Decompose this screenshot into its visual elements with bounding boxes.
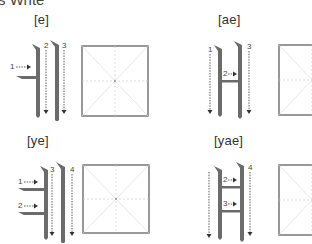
svg-text:1: 1 [18, 177, 23, 186]
stroke-order-glyph-ae: 1 2 3 [190, 35, 270, 120]
panel-label: [ae] [218, 12, 240, 27]
svg-text:1: 1 [208, 45, 213, 54]
svg-text:3: 3 [247, 42, 252, 51]
panel-label: [yae] [214, 133, 243, 148]
practice-grid-box[interactable] [82, 164, 150, 234]
svg-text:2: 2 [18, 201, 23, 210]
svg-text:4: 4 [248, 163, 253, 172]
panel-ye: [ye] 1 2 3 4 [0, 122, 156, 244]
svg-text:1: 1 [10, 62, 15, 71]
panel-ae: [ae] 1 2 3 [156, 0, 312, 122]
svg-text:3: 3 [223, 199, 228, 208]
practice-grid-box[interactable] [278, 44, 312, 116]
stroke-order-glyph-yae: 1 2 3 4 [196, 158, 276, 243]
svg-text:2: 2 [44, 41, 49, 50]
panel-label: [e] [34, 12, 49, 27]
svg-text:4: 4 [70, 165, 75, 174]
svg-text:3: 3 [62, 41, 67, 50]
svg-text:2: 2 [223, 69, 228, 78]
svg-text:2: 2 [223, 175, 228, 184]
panel-label: [ye] [27, 133, 49, 148]
practice-grid-box[interactable] [278, 164, 312, 236]
panel-e: [e] 1 2 3 [0, 0, 156, 122]
panel-yae: [yae] 1 2 3 4 [156, 122, 312, 244]
stroke-order-glyph-ye: 1 2 3 4 [12, 158, 82, 243]
practice-grid-box[interactable] [81, 45, 149, 117]
stroke-order-glyph-e: 1 2 3 [4, 36, 74, 121]
svg-text:3: 3 [50, 165, 55, 174]
